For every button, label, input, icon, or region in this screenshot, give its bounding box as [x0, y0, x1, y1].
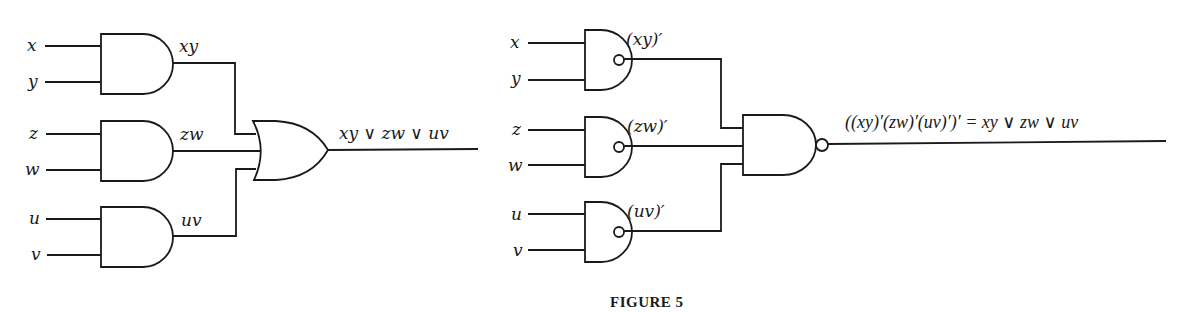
final-output-expression: ((xy)′(zw)′(uv)′)′ = xy ∨ zw ∨ uv [845, 112, 1078, 133]
nand-output-label-xy: (xy)′ [626, 29, 662, 49]
nand-output-label-zw: (zw)′ [627, 116, 668, 136]
nand-input-label-y: y [510, 68, 521, 88]
nand-gate-xy [585, 30, 632, 90]
final-nand-gate [743, 115, 816, 175]
input-label-w: w [25, 159, 40, 179]
right-circuit: x y z w u v (xy)′ (zw)′ (uv)′ ((xy)′(z [508, 29, 1166, 262]
nand-gate-uv [585, 202, 632, 262]
nand-input-label-x: x [510, 32, 520, 52]
nand-input-label-v: v [513, 240, 523, 260]
nand-bubble-uv [614, 227, 624, 237]
nand-gate-zw [585, 117, 632, 177]
final-nand-bubble [816, 139, 828, 151]
input-label-v: v [31, 244, 41, 264]
and-gate-zw [101, 121, 173, 181]
wire-final-output [828, 141, 1166, 144]
left-circuit: x y z w u v xy zw uv xy ∨ zw ∨ uv [25, 34, 478, 267]
and-output-label-zw: zw [179, 124, 204, 144]
nand-output-label-uv: (uv)′ [627, 201, 665, 221]
or-gate [253, 121, 328, 180]
and-gate-xy [101, 34, 173, 94]
and-gate-uv [101, 207, 173, 267]
input-label-z: z [28, 123, 39, 143]
nand-bubble-zw [614, 142, 624, 152]
and-output-label-xy: xy [179, 36, 199, 56]
wire-or-output [328, 149, 478, 150]
nand-input-label-u: u [511, 204, 522, 224]
input-label-u: u [29, 208, 40, 228]
input-label-y: y [27, 71, 38, 91]
and-output-label-uv: uv [181, 210, 202, 230]
or-output-label: xy ∨ zw ∨ uv [339, 123, 449, 143]
nand-input-label-w: w [508, 155, 523, 175]
input-label-x: x [27, 35, 37, 55]
nand-bubble-xy [614, 55, 624, 65]
circuit-diagram: x y z w u v xy zw uv xy ∨ zw ∨ uv x [0, 0, 1199, 312]
nand-input-label-z: z [511, 119, 522, 139]
figure-caption: FIGURE 5 [610, 294, 684, 310]
